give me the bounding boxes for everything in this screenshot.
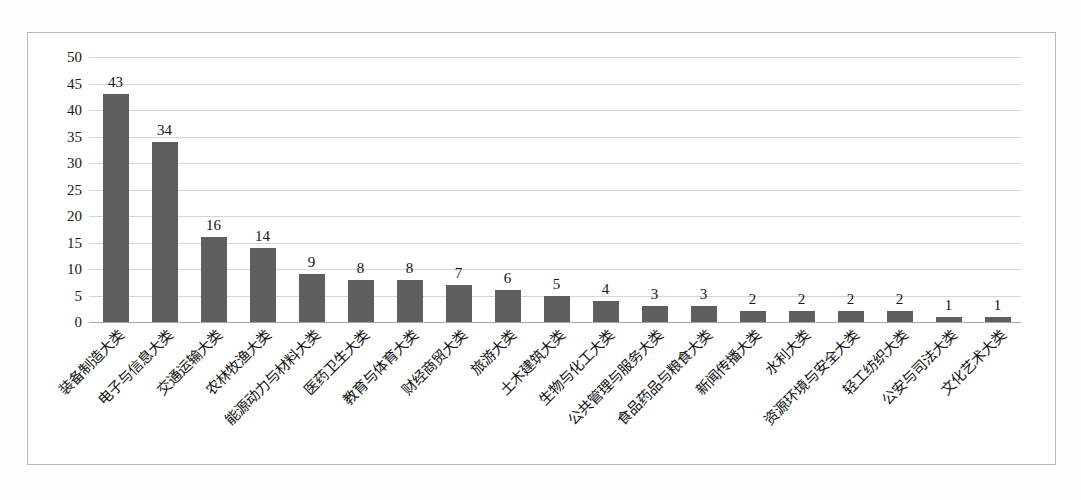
x-axis-labels: 装备制造大类电子与信息大类交通运输大类农林牧渔大类能源动力与材料大类医药卫生大类… <box>89 324 1021 464</box>
bar-slot: 6 <box>483 57 532 322</box>
bar-value-label: 3 <box>651 287 659 302</box>
x-axis-category-label: 水利大类 <box>762 328 812 378</box>
bar[interactable] <box>397 280 423 322</box>
y-axis-tick-label: 45 <box>67 76 82 91</box>
bar-slot: 9 <box>287 57 336 322</box>
scanned-page: 05101520253035404550 4334161498876543322… <box>0 0 1081 500</box>
bar-value-label: 3 <box>700 287 708 302</box>
bar[interactable] <box>593 301 619 322</box>
bar[interactable] <box>838 311 864 322</box>
bar-slot: 14 <box>238 57 287 322</box>
bar-slot: 1 <box>973 57 1022 322</box>
bar-value-label: 9 <box>308 255 316 270</box>
x-axis-category-label: 旅游大类 <box>468 328 518 378</box>
bars-layer: 43341614988765433222211 <box>89 57 1021 322</box>
bar-value-label: 2 <box>896 292 904 307</box>
bar[interactable] <box>887 311 913 322</box>
x-axis-category-label: 资源环境与安全大类 <box>761 328 861 428</box>
bar-value-label: 34 <box>157 123 172 138</box>
bar-slot: 2 <box>728 57 777 322</box>
bar-slot: 5 <box>532 57 581 322</box>
bar-value-label: 8 <box>357 261 365 276</box>
y-axis-tick-label: 20 <box>67 209 82 224</box>
chart-frame: 05101520253035404550 4334161498876543322… <box>27 32 1056 465</box>
bar-slot: 7 <box>434 57 483 322</box>
y-axis-tick-label: 5 <box>75 288 83 303</box>
bar[interactable] <box>152 142 178 322</box>
bar[interactable] <box>103 94 129 322</box>
bar[interactable] <box>740 311 766 322</box>
bar-value-label: 2 <box>749 292 757 307</box>
bar[interactable] <box>446 285 472 322</box>
axis-baseline <box>89 322 1021 323</box>
bar-slot: 2 <box>826 57 875 322</box>
bar-value-label: 43 <box>108 75 123 90</box>
bar[interactable] <box>985 317 1011 322</box>
bar-slot: 2 <box>777 57 826 322</box>
x-axis-category-label: 能源动力与材料大类 <box>222 328 322 428</box>
y-axis-tick-label: 30 <box>67 156 82 171</box>
bar[interactable] <box>642 306 668 322</box>
bar-value-label: 1 <box>994 298 1002 313</box>
bar-value-label: 8 <box>406 261 414 276</box>
bar-value-label: 1 <box>945 298 953 313</box>
bar-slot: 8 <box>385 57 434 322</box>
bar-slot: 2 <box>875 57 924 322</box>
x-axis-category-label: 食品药品与粮食大类 <box>614 328 714 428</box>
bar[interactable] <box>299 274 325 322</box>
bar-slot: 3 <box>630 57 679 322</box>
bar[interactable] <box>201 237 227 322</box>
y-axis-tick-label: 35 <box>67 129 82 144</box>
bar[interactable] <box>544 296 570 323</box>
y-axis-tick-label: 25 <box>67 182 82 197</box>
bar[interactable] <box>250 248 276 322</box>
bar-slot: 8 <box>336 57 385 322</box>
y-axis-tick-label: 40 <box>67 103 82 118</box>
bar[interactable] <box>348 280 374 322</box>
bar-slot: 1 <box>924 57 973 322</box>
y-axis-tick-label: 0 <box>75 315 83 330</box>
bar-value-label: 4 <box>602 282 610 297</box>
bar-slot: 16 <box>189 57 238 322</box>
bar-value-label: 2 <box>847 292 855 307</box>
bar-slot: 4 <box>581 57 630 322</box>
bar-value-label: 5 <box>553 277 561 292</box>
bar[interactable] <box>936 317 962 322</box>
bar-value-label: 2 <box>798 292 806 307</box>
y-axis-tick-label: 50 <box>67 50 82 65</box>
bar[interactable] <box>789 311 815 322</box>
bar-chart: 05101520253035404550 4334161498876543322… <box>28 33 1057 466</box>
bar[interactable] <box>495 290 521 322</box>
bar-slot: 3 <box>679 57 728 322</box>
plot-area: 05101520253035404550 4334161498876543322… <box>89 57 1021 322</box>
y-axis-tick-label: 10 <box>67 262 82 277</box>
bar-slot: 34 <box>140 57 189 322</box>
bar-value-label: 16 <box>206 218 221 233</box>
bar-value-label: 6 <box>504 271 512 286</box>
bar[interactable] <box>691 306 717 322</box>
x-axis-category-label: 公共管理与服务大类 <box>565 328 665 428</box>
y-axis-tick-label: 15 <box>67 235 82 250</box>
bar-slot: 43 <box>91 57 140 322</box>
bar-value-label: 14 <box>255 229 270 244</box>
bar-value-label: 7 <box>455 266 463 281</box>
